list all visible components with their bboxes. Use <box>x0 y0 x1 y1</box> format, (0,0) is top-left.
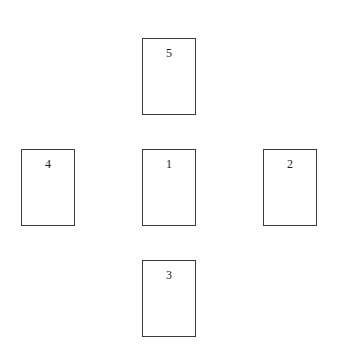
card-position-1: 1 <box>142 149 196 226</box>
position-number: 3 <box>143 268 195 283</box>
card-position-4: 4 <box>21 149 75 226</box>
position-number: 2 <box>264 157 316 172</box>
position-number: 5 <box>143 46 195 61</box>
card-position-3: 3 <box>142 260 196 337</box>
position-number: 1 <box>143 157 195 172</box>
card-position-5: 5 <box>142 38 196 115</box>
card-position-2: 2 <box>263 149 317 226</box>
position-number: 4 <box>22 157 74 172</box>
